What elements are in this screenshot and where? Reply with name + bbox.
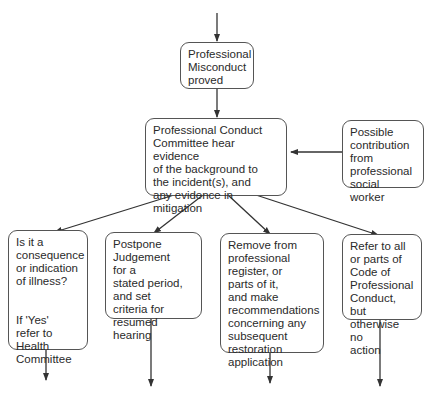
node-social-worker: Possible contribution from professional … — [342, 120, 424, 188]
node-remove-from-register: Remove from professional register, or pa… — [220, 233, 324, 353]
node-illness-check: Is it a consequence or indication of ill… — [8, 230, 88, 350]
node-postpone-judgement: Postpone Judgement for a stated period, … — [105, 232, 202, 319]
node-refer-to-code: Refer to all or parts of Code of Profess… — [342, 234, 422, 320]
arrow-to-remove — [228, 195, 270, 234]
node-committee-hearing: Professional Conduct Committee hear evid… — [145, 118, 287, 196]
node-misconduct-proved: Professional Misconduct proved — [180, 42, 254, 89]
